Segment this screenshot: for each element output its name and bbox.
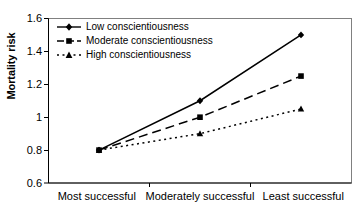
legend-label: Moderate conscientiousness [86, 35, 213, 47]
legend-key-solid-diamond [56, 21, 82, 33]
x-axis-ticks [150, 183, 251, 187]
x-tick-label: Moderately successful [146, 188, 255, 204]
y-axis-ticks [44, 19, 49, 184]
legend-item-low: Low conscientiousness [56, 21, 236, 33]
legend-label: High conscientiousness [86, 49, 191, 61]
chart-legend: Low conscientiousness Moderate conscient… [56, 21, 236, 63]
data-point-marker [298, 73, 304, 79]
legend-item-high: High conscientiousness [56, 49, 236, 61]
mortality-risk-line-chart: Mortality risk 1.6 1.4 1.2 1 0.8 0.6 [0, 0, 362, 221]
x-axis-tick-labels: Most successful Moderately successful Le… [48, 188, 352, 204]
legend-key-dotted-triangle [56, 49, 82, 61]
x-tick-label: Least successful [254, 188, 352, 204]
legend-item-moderate: Moderate conscientiousness [56, 35, 236, 47]
data-point-marker [197, 114, 203, 120]
legend-label: Low conscientiousness [86, 21, 189, 33]
x-tick-label: Most successful [48, 188, 146, 204]
legend-key-dashed-square [56, 35, 82, 47]
